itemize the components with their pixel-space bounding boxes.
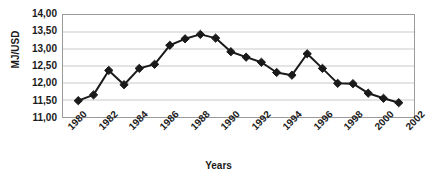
y-tick-label: 13,50: [32, 26, 57, 36]
data-line: [78, 34, 398, 102]
y-tick-label: 12,00: [32, 78, 57, 88]
y-tick-label: 12,50: [32, 61, 57, 71]
data-point-marker[interactable]: [379, 94, 387, 102]
y-tick-label: 11,50: [33, 96, 57, 106]
x-axis-title: Years: [0, 160, 437, 171]
y-tick-label: 13,00: [32, 44, 57, 54]
data-point-marker[interactable]: [181, 35, 189, 43]
data-point-marker[interactable]: [242, 53, 250, 61]
chart-container: MJ/USD 14,0013,5013,0012,5012,0011,5011,…: [0, 0, 437, 182]
y-tick-label: 14,00: [32, 9, 57, 19]
y-tick-label: 11,00: [33, 113, 57, 123]
plot-svg: [63, 15, 414, 117]
plot-area: [62, 14, 415, 118]
data-point-marker[interactable]: [74, 97, 82, 105]
y-axis-tick-labels: 14,0013,5013,0012,5012,0011,5011,00: [0, 0, 60, 125]
data-point-marker[interactable]: [196, 30, 204, 38]
